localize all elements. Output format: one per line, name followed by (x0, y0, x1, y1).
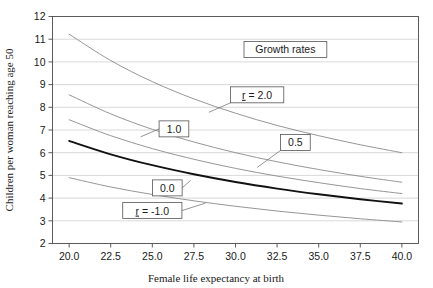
callout-growth-rates: Growth rates (244, 41, 327, 57)
x-tick-label: 25.0 (142, 250, 163, 262)
callout-text: 1.0 (167, 123, 182, 135)
y-tick-label: 3 (40, 215, 46, 227)
x-tick-label: 35.0 (308, 250, 329, 262)
x-tick-label: 37.5 (350, 250, 371, 262)
x-tick-label: 30.0 (225, 250, 246, 262)
callout-text: 0.0 (160, 182, 175, 194)
x-tick-label: 22.5 (101, 250, 122, 262)
y-tick-label: 9 (40, 78, 46, 90)
callout-text: Growth rates (255, 43, 315, 55)
x-tick-label: 20.0 (59, 250, 80, 262)
callout-text: r = -1.0 (136, 205, 170, 217)
growth-rates-line-chart: 20.022.525.027.530.032.535.037.540.0 234… (0, 0, 433, 288)
y-tick-label: 7 (40, 124, 46, 136)
y-tick-label: 5 (40, 169, 46, 181)
y-axis-ticks-group: 23456789101112 (34, 10, 53, 249)
gridlines-group (53, 39, 419, 221)
y-tick-label: 6 (40, 147, 46, 159)
x-tick-label: 32.5 (267, 250, 288, 262)
curves-group (69, 34, 402, 222)
callout-leader-line (182, 203, 206, 210)
callout-text: r = 2.0 (242, 89, 272, 101)
y-tick-label: 8 (40, 101, 46, 113)
x-axis-ticks-group: 20.022.525.027.530.032.535.037.540.0 (59, 244, 412, 262)
y-tick-label: 2 (40, 237, 46, 249)
callout-text: 0.5 (288, 136, 303, 148)
callout-r--1.0: r = -1.0 (123, 203, 182, 219)
y-tick-label: 11 (35, 33, 46, 45)
curve-r--1.0 (69, 178, 402, 222)
callout-1.0: 1.0 (159, 121, 189, 137)
callout-leader-line (182, 180, 190, 187)
figure-container: 20.022.525.027.530.032.535.037.540.0 234… (0, 0, 433, 288)
y-axis-title: Children per woman reaching age 50 (3, 48, 15, 211)
y-tick-label: 12 (34, 10, 46, 22)
callout-0.0: 0.0 (152, 180, 182, 196)
y-tick-label: 10 (34, 56, 46, 68)
y-tick-label: 4 (40, 192, 46, 204)
callout-0.5: 0.5 (281, 134, 311, 150)
x-tick-label: 40.0 (392, 250, 413, 262)
x-axis-title: Female life expectancy at birth (148, 272, 285, 284)
callout-r-2.0: r = 2.0 (230, 87, 283, 103)
x-tick-label: 27.5 (184, 250, 205, 262)
curve-r-0.0 (69, 141, 402, 204)
